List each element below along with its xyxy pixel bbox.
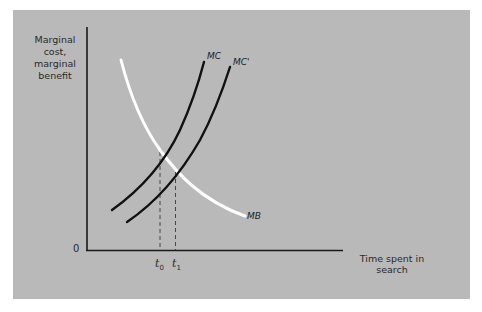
origin-label: 0 <box>73 243 79 254</box>
y-axis-label: Marginal cost, marginal benefit <box>30 34 80 82</box>
mc-prime-curve <box>127 67 230 222</box>
mc-curve <box>112 62 204 210</box>
t0-tick-label: t0 <box>155 257 164 272</box>
x-axis-label-line: Time spent in <box>352 253 432 264</box>
x-axis-label: Time spent in search <box>352 253 432 275</box>
t1-subscript: 1 <box>176 264 180 272</box>
y-axis-label-line: marginal <box>30 58 80 70</box>
mc-label: MC <box>207 51 221 61</box>
t0-subscript: 0 <box>159 264 163 272</box>
mb-label: MB <box>247 211 261 221</box>
y-axis-label-line: benefit <box>30 70 80 82</box>
figure-caption-fragment <box>12 302 72 308</box>
x-axis-label-line: search <box>352 264 432 275</box>
y-axis-label-line: cost, <box>30 46 80 58</box>
mb-curve <box>121 60 245 216</box>
t1-tick-label: t1 <box>172 257 181 272</box>
mc-prime-label: MC' <box>233 57 250 67</box>
y-axis-label-line: Marginal <box>30 34 80 46</box>
